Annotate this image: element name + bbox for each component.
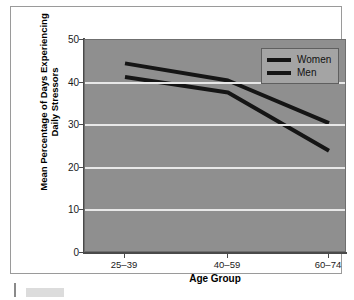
legend-item-men: Men — [267, 66, 331, 79]
gridline-10 — [85, 209, 345, 211]
y-tick-label-50: 50 — [49, 34, 79, 45]
x-tick-label-2: 60–74 — [298, 259, 354, 270]
chart-frame: Mean Percentage of Days Experiencing Dai… — [10, 6, 342, 274]
x-axis-title: Age Group — [84, 273, 346, 284]
plot-area: Women Men — [84, 39, 346, 252]
legend-label-men: Men — [297, 67, 316, 78]
x-tick-label-1: 40–59 — [197, 259, 257, 270]
y-axis-title-line-1: Mean Percentage of Days Experiencing — [38, 2, 49, 202]
legend-label-women: Women — [297, 54, 331, 65]
legend-swatch-icon-women — [267, 58, 291, 62]
x-tick-mark-1 — [227, 253, 228, 258]
y-tick-label-0: 0 — [49, 247, 79, 258]
y-tick-label-10: 10 — [49, 204, 79, 215]
x-tick-mark-0 — [124, 253, 125, 258]
y-tick-label-20: 20 — [49, 161, 79, 172]
y-tick-label-30: 30 — [49, 119, 79, 130]
legend-swatch-icon-men — [267, 71, 291, 75]
legend: Women Men — [261, 48, 339, 84]
legend-item-women: Women — [267, 53, 331, 66]
x-tick-label-0: 25–39 — [94, 259, 154, 270]
series-line-men — [125, 77, 329, 151]
caption-placeholder — [26, 288, 64, 297]
gridline-30 — [85, 124, 345, 126]
caption-marker — [14, 283, 16, 297]
figure-container: Mean Percentage of Days Experiencing Dai… — [0, 0, 354, 300]
gridline-20 — [85, 167, 345, 169]
x-tick-mark-2 — [328, 253, 329, 258]
y-tick-label-40: 40 — [49, 76, 79, 87]
